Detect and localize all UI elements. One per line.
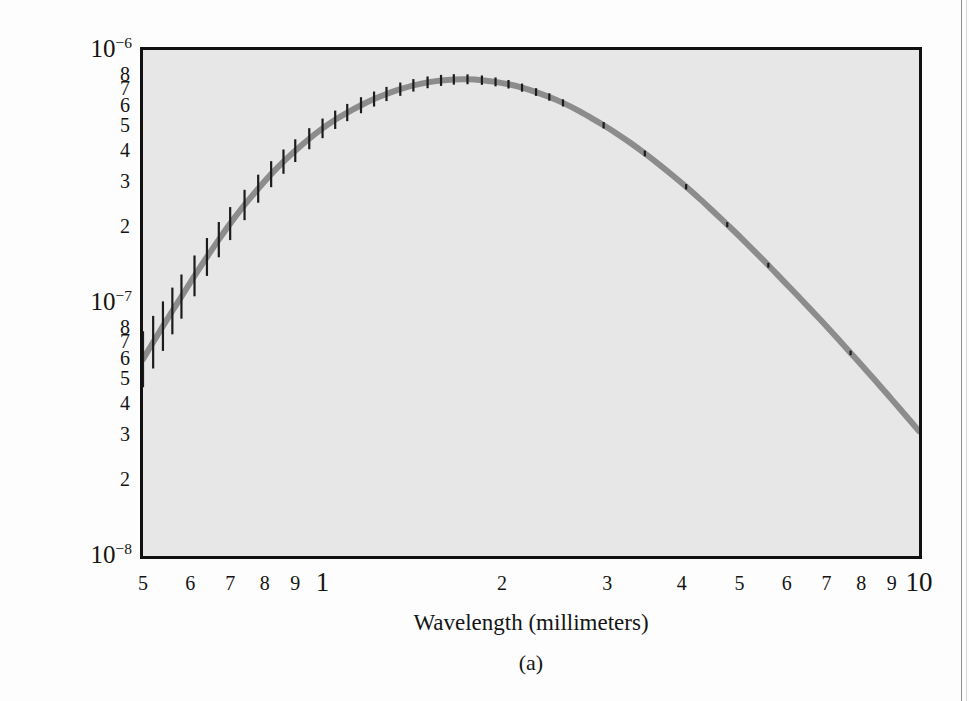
y-axis-tick-label: 10−6 — [42, 36, 132, 61]
y-axis-tick-label: 4 — [70, 393, 130, 413]
spectrum-curve-group — [143, 79, 919, 431]
x-axis-tick-label: 1 — [293, 569, 353, 596]
x-axis-tick-label: 10 — [889, 569, 949, 596]
x-axis-tick-label: 4 — [652, 573, 712, 593]
y-axis-tick-label: 3 — [70, 171, 130, 191]
y-axis-tick-label: 10−8 — [42, 542, 132, 567]
panel-label: (a) — [140, 650, 922, 676]
y-axis-tick-label: 5 — [70, 115, 130, 135]
spectrum-curve — [143, 79, 919, 431]
figure-root: Intensity (W/m2/per unit of sky) 10−6876… — [0, 0, 969, 701]
plot-canvas — [143, 50, 919, 556]
y-axis-tick-label: 5 — [70, 368, 130, 388]
y-axis-tick-label: 6 — [70, 95, 130, 115]
x-axis-tick-label: 2 — [472, 573, 532, 593]
x-axis-title: Wavelength (millimeters) — [140, 610, 922, 636]
y-axis-tick-label: 2 — [70, 469, 130, 489]
y-axis-tick-label: 6 — [70, 348, 130, 368]
y-axis-tick-label: 10−7 — [42, 289, 132, 314]
y-axis-tick-label: 4 — [70, 140, 130, 160]
y-axis-tick-label: 3 — [70, 424, 130, 444]
y-axis-tick-label: 2 — [70, 216, 130, 236]
page-rule-secondary — [966, 0, 967, 701]
x-axis-tick-label: 3 — [577, 573, 637, 593]
error-bars-group — [143, 74, 851, 387]
page-rule-primary — [961, 0, 962, 701]
plot-frame — [140, 47, 922, 559]
